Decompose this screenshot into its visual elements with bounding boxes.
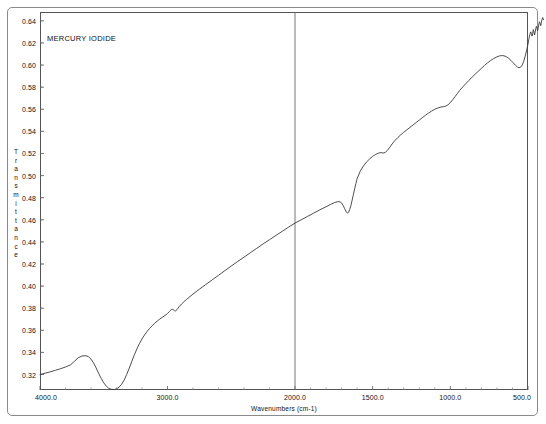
spectrum-viewer: MERCURY IODIDE Transmittance 0.320.340.3… [0,0,546,424]
x-tick-label: 4000.0 [35,394,57,401]
x-tick-label: 1000.0 [439,394,461,401]
x-axis-title: Wavenumbers (cm-1) [251,405,317,412]
x-tick-label: 3000.0 [156,394,178,401]
x-tick-label: 1500.0 [362,394,384,401]
x-tick-label: 2000.0 [284,394,306,401]
x-tick-label: 500.0 [513,394,531,401]
x-axis-tick-labels: 4000.03000.02000.01500.01000.0500.0 [0,0,546,424]
